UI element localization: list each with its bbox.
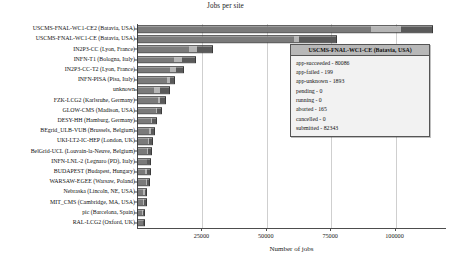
y-axis-label: DESY-HH (Hamburg, Germany) <box>57 118 135 124</box>
tooltip-line: app-unknown - 1893 <box>296 77 424 86</box>
y-axis-label: INFN-T1 (Bologna, Italy) <box>74 57 135 63</box>
bar-segment-aborted <box>160 87 168 93</box>
y-axis-label: IN2P3-CC-T2 (Lyon, France) <box>65 67 135 73</box>
y-axis-label: USCMS-FNAL-WC1-CE2 (Batavia, USA) <box>33 26 135 32</box>
bar-segment-app-succeeded <box>138 26 371 32</box>
stacked-bar[interactable] <box>137 199 147 207</box>
bar-segment-app-succeeded <box>138 179 146 185</box>
jobs-per-site-chart: Jobs per site 250005000075000100000 Numb… <box>0 0 451 262</box>
stacked-bar[interactable] <box>137 97 166 105</box>
bar-row[interactable]: WARSAW-EGEE (Warsaw, Poland) <box>0 177 451 187</box>
bar-segment-aborted <box>160 98 165 104</box>
stacked-bar[interactable] <box>137 107 162 115</box>
stacked-bar[interactable] <box>137 46 213 54</box>
y-axis-label: BUDAPEST (Budapest, Hungary) <box>54 169 135 175</box>
bar-segment-aborted <box>157 108 161 114</box>
bar-row[interactable]: BelGrid-UCL (Louvain-la-Neuve, Belgium) <box>0 146 451 156</box>
bar-segment-app-succeeded <box>138 67 170 73</box>
stacked-bar[interactable] <box>137 56 196 64</box>
bar-segment-app-unknown <box>371 26 402 32</box>
bar-segment-aborted <box>145 189 147 195</box>
bar-segment-app-succeeded <box>138 149 147 155</box>
stacked-bar[interactable] <box>137 25 433 33</box>
tooltip-line: pending - 0 <box>296 87 424 96</box>
tooltip-line: running - 0 <box>296 96 424 105</box>
tooltip-body: app-succeeded - 80086app-failed - 199app… <box>291 56 429 136</box>
chart-title: Jobs per site <box>0 2 451 10</box>
bar-segment-aborted <box>170 77 174 83</box>
y-axis-label: Nebraska (Lincoln, NE, USA) <box>64 189 136 195</box>
stacked-bar[interactable] <box>137 148 152 156</box>
stacked-bar[interactable] <box>137 158 151 166</box>
x-axis-title: Number of jobs <box>137 245 446 253</box>
bar-row[interactable]: INFN-LNL-2 (Legnaro (PD), Italy) <box>0 157 451 167</box>
stacked-bar[interactable] <box>137 117 157 125</box>
y-axis-label: UKI-LT2-IC-HEP (London, UK) <box>57 138 135 144</box>
bar-row[interactable]: RAL-LCG2 (Oxford, UK) <box>0 218 451 228</box>
y-axis-label: USCMS-FNAL-WC1-CE (Batavia, USA) <box>36 36 135 42</box>
x-axis-line <box>137 228 446 229</box>
tooltip-line: cancelled - 0 <box>296 115 424 124</box>
y-axis-label: BEgrid_ULB-VUB (Brussels, Belgium) <box>40 128 135 134</box>
bar-segment-aborted <box>299 36 336 42</box>
y-axis-label: unknown <box>113 87 135 93</box>
stacked-bar[interactable] <box>137 86 170 94</box>
stacked-bar[interactable] <box>137 66 184 74</box>
bar-segment-aborted <box>197 47 212 53</box>
bar-row[interactable]: USCMS-FNAL-WC1-CE2 (Batavia, USA) <box>0 24 451 34</box>
bar-segment-aborted <box>147 179 149 185</box>
site-tooltip: USCMS-FNAL-WC1-CE (Batavia, USA) app-suc… <box>290 44 430 137</box>
stacked-bar[interactable] <box>137 188 147 196</box>
x-tick <box>201 228 202 231</box>
x-tick <box>395 228 396 231</box>
bar-segment-app-succeeded <box>138 47 189 53</box>
y-axis-label: INFN-LNL-2 (Legnaro (PD), Italy) <box>51 159 135 165</box>
bar-segment-aborted <box>143 220 144 226</box>
bar-segment-app-succeeded <box>138 169 145 175</box>
bar-segment-aborted <box>144 200 146 206</box>
bar-segment-app-succeeded <box>138 36 294 42</box>
bar-segment-app-succeeded <box>138 87 154 93</box>
bar-row[interactable]: USCMS-FNAL-WC1-CE (Batavia, USA) <box>0 34 451 44</box>
stacked-bar[interactable] <box>137 209 145 217</box>
x-tick-label: 100000 <box>385 232 404 239</box>
y-axis-label: BelGrid-UCL (Louvain-la-Neuve, Belgium) <box>31 149 135 155</box>
bar-segment-aborted <box>176 67 183 73</box>
y-axis-label: INFN-PISA (Pisa, Italy) <box>78 77 135 83</box>
bar-row[interactable]: pic (Barcelona, Spain) <box>0 208 451 218</box>
bar-row[interactable]: Nebraska (Lincoln, NE, USA) <box>0 187 451 197</box>
bar-segment-app-succeeded <box>138 159 147 165</box>
bar-row[interactable]: UKI-LT2-IC-HEP (London, UK) <box>0 136 451 146</box>
bar-segment-app-unknown <box>174 57 181 63</box>
bar-segment-aborted <box>401 26 432 32</box>
y-axis-label: IN2P3-CC (Lyon, France) <box>73 47 135 53</box>
y-axis-label: WARSAW-EGEE (Warsaw, Poland) <box>49 179 135 185</box>
tooltip-title: USCMS-FNAL-WC1-CE (Batavia, USA) <box>291 45 429 56</box>
bar-row[interactable]: MIT_CMS (Cambridge, MA, USA) <box>0 197 451 207</box>
stacked-bar[interactable] <box>137 178 150 186</box>
stacked-bar[interactable] <box>137 76 175 84</box>
bar-segment-aborted <box>182 57 196 63</box>
bar-segment-aborted <box>149 138 152 144</box>
stacked-bar[interactable] <box>137 137 153 145</box>
bar-segment-app-succeeded <box>138 57 174 63</box>
bar-segment-aborted <box>148 149 150 155</box>
bar-segment-app-succeeded <box>138 77 167 83</box>
y-axis-label: GLOW-CMS (Madison, USA) <box>63 108 136 114</box>
stacked-bar[interactable] <box>137 35 337 43</box>
stacked-bar[interactable] <box>137 219 145 227</box>
bar-segment-app-unknown <box>189 47 197 53</box>
bar-segment-aborted <box>147 169 150 175</box>
bar-segment-app-succeeded <box>138 138 148 144</box>
tooltip-line: app-succeeded - 80086 <box>296 59 424 68</box>
y-axis-label: FZK-LCG2 (Karlsruhe, Germany) <box>54 98 135 104</box>
bar-segment-app-succeeded <box>138 108 156 114</box>
bar-segment-aborted <box>143 210 144 216</box>
stacked-bar[interactable] <box>137 168 151 176</box>
y-axis-label: RAL-LCG2 (Oxford, UK) <box>73 220 135 226</box>
bar-row[interactable]: BUDAPEST (Budapest, Hungary) <box>0 167 451 177</box>
stacked-bar[interactable] <box>137 127 155 135</box>
bar-segment-app-succeeded <box>138 118 151 124</box>
x-tick <box>330 228 331 231</box>
x-tick <box>266 228 267 231</box>
